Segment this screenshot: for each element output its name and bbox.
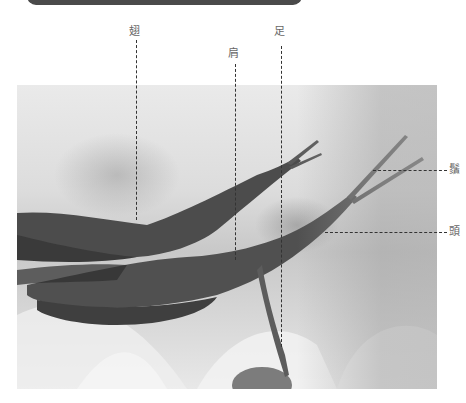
grasshopper-illustration xyxy=(17,85,437,389)
wing-leader-line xyxy=(136,40,137,220)
antennae-label: 鬚 xyxy=(449,164,460,176)
antennae-leader-line xyxy=(373,170,447,171)
grasshopper-photo xyxy=(17,85,437,389)
wing-label: 翅 xyxy=(129,26,140,38)
shoulder-leader-line xyxy=(235,64,236,260)
leg-leader-line xyxy=(281,46,282,347)
shoulder-label: 肩 xyxy=(228,48,239,60)
head-label: 頭 xyxy=(449,226,460,238)
header-bar xyxy=(27,0,302,5)
leg-label: 足 xyxy=(274,26,285,38)
head-leader-line xyxy=(325,232,447,233)
